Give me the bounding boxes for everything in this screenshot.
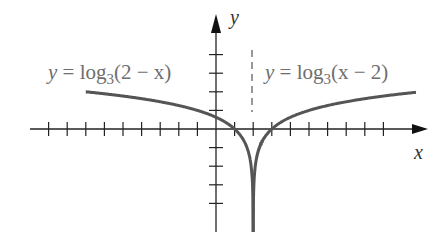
curve-log3-2-minus-x (86, 92, 253, 232)
curve-log3-x-minus-2 (253, 92, 416, 232)
y-axis (209, 14, 223, 232)
log-graph: y x y = log3(2 − x) y = log3(x − 2) (0, 0, 448, 246)
right-curve-equation: y = log3(x − 2) (263, 60, 388, 87)
y-axis-arrow-icon (211, 14, 221, 33)
left-curve-equation: y = log3(2 − x) (46, 60, 171, 87)
x-axis-arrow-icon (412, 124, 428, 134)
y-axis-label: y (228, 6, 239, 29)
x-axis-label: x (413, 141, 423, 163)
